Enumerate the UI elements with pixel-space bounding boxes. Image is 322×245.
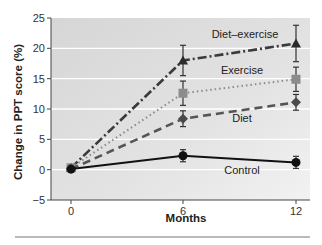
y-tick-label: 0 xyxy=(39,164,45,176)
y-tick-label: 20 xyxy=(33,42,45,54)
x-tick-label: 12 xyxy=(290,205,302,217)
x-tick-label: 0 xyxy=(68,205,74,217)
y-tick-label: 5 xyxy=(39,133,45,145)
circle-marker xyxy=(67,165,76,174)
y-tick-label: 10 xyxy=(33,103,45,115)
circle-marker xyxy=(292,158,301,167)
series-label: Exercise xyxy=(221,64,263,76)
square-marker xyxy=(292,75,301,84)
series-label: Control xyxy=(224,164,259,176)
y-axis-title: Change in PPT score (%) xyxy=(12,44,24,180)
series-label: Diet xyxy=(232,112,252,124)
y-tick-label: 25 xyxy=(33,12,45,24)
y-tick-label: −5 xyxy=(32,194,45,206)
series-label: Diet–exercise xyxy=(212,28,279,40)
ppt-score-chart: 2520151050−50612 Diet–exerciseExerciseDi… xyxy=(0,0,322,245)
square-marker xyxy=(179,89,188,98)
y-tick-label: 15 xyxy=(33,73,45,85)
circle-marker xyxy=(179,151,188,160)
x-axis-title: Months xyxy=(166,212,207,224)
